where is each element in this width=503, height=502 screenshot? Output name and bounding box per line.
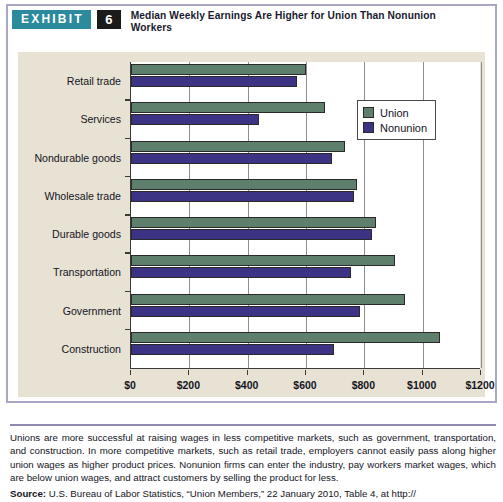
x-axis-label: $800 [352,379,375,391]
category-label: Government [63,305,121,317]
x-axis-tick [363,370,364,375]
bar-nonunion [131,229,372,240]
legend-swatch-union [363,107,374,118]
category-tick [125,329,131,331]
category-tick [125,252,131,254]
category-tick [125,138,131,140]
exhibit-title: Median Weekly Earnings Are Higher for Un… [131,10,471,34]
category-row: Transportation [131,253,480,291]
bar-nonunion [131,153,332,164]
bar-union [131,255,395,266]
category-row: Government [131,292,480,330]
source-line: Source: U.S. Bureau of Labor Statistics,… [10,487,496,501]
category-tick [125,99,131,101]
caption-block: Unions are more successful at raising wa… [10,424,496,500]
bar-union [131,64,306,75]
x-axis-label: $1200 [465,379,494,391]
legend-swatch-nonunion [363,122,374,133]
bar-union [131,332,440,343]
bar-union [131,217,376,228]
bar-nonunion [131,267,351,278]
bar-nonunion [131,344,334,355]
gridline [481,62,482,368]
bar-nonunion [131,191,354,202]
category-label: Wholesale trade [44,190,121,202]
x-axis-tick [130,370,131,375]
caption-divider [10,424,496,426]
bar-nonunion [131,76,297,87]
caption-body: Unions are more successful at raising wa… [10,431,496,485]
category-row: Construction [131,330,480,368]
exhibit-page: EXHIBIT 6 Median Weekly Earnings Are Hig… [0,0,503,502]
x-axis-label: $1000 [407,379,436,391]
category-label: Services [80,113,121,125]
chart-canvas: Retail tradeServicesNondurable goodsWhol… [18,52,485,397]
x-axis-label: $200 [177,379,200,391]
x-axis-tick [188,370,189,375]
x-axis-label: $400 [235,379,258,391]
legend-label-nonunion: Nonunion [380,122,427,134]
legend-item-nonunion: Nonunion [363,120,427,135]
chart-legend: Union Nonunion [357,100,436,140]
x-axis-label: $0 [124,379,136,391]
exhibit-badge: EXHIBIT [12,10,91,29]
bar-union [131,294,405,305]
bar-nonunion [131,306,360,317]
source-text: U.S. Bureau of Labor Statistics, “Union … [46,488,416,499]
category-tick [125,291,131,293]
plot-area: Retail tradeServicesNondurable goodsWhol… [130,62,480,387]
category-row: Durable goods [131,215,480,253]
category-label: Transportation [53,266,121,278]
category-tick [125,214,131,216]
x-axis-tick [422,370,423,375]
category-label: Durable goods [52,228,121,240]
bar-union [131,179,357,190]
exhibit-header: EXHIBIT 6 Median Weekly Earnings Are Hig… [12,10,492,44]
bar-union [131,102,325,113]
category-tick [125,176,131,178]
category-row: Nondurable goods [131,139,480,177]
exhibit-number-badge: 6 [97,10,121,29]
legend-label-union: Union [380,107,409,119]
x-axis-tick [247,370,248,375]
source-label: Source: [10,488,46,499]
category-label: Retail trade [67,75,121,87]
category-label: Construction [62,343,121,355]
x-axis-label: $600 [293,379,316,391]
bar-nonunion [131,114,259,125]
x-axis-tick [480,370,481,375]
legend-item-union: Union [363,105,427,120]
category-label: Nondurable goods [34,152,121,164]
category-row: Retail trade [131,62,480,100]
x-axis-tick [305,370,306,375]
bar-union [131,141,345,152]
category-row: Wholesale trade [131,177,480,215]
